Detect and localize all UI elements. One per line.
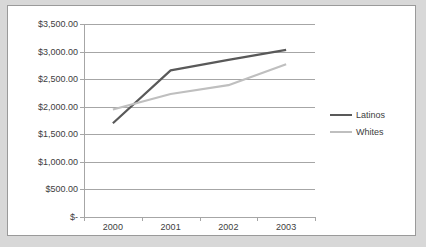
x-axis-tick: [315, 217, 316, 221]
y-axis-tick-label: $1,000.00: [38, 157, 78, 167]
series-line-whites: [113, 64, 286, 109]
y-axis-tick-label: $-: [70, 212, 78, 222]
series-line-latinos: [113, 50, 286, 123]
x-axis-labels: 2000200120022003: [84, 221, 315, 235]
y-axis-tick-label: $3,000.00: [38, 47, 78, 57]
y-axis-tick-label: $500.00: [45, 184, 78, 194]
legend-item-whites: Whites: [330, 123, 410, 140]
y-axis-tick-label: $2,500.00: [38, 74, 78, 84]
x-axis-tick-label: 2000: [103, 221, 123, 233]
x-axis-tick-label: 2001: [161, 221, 181, 233]
y-axis-tick-label: $3,500.00: [38, 19, 78, 29]
y-axis-labels: $3,500.00$3,000.00$2,500.00$2,000.00$1,5…: [8, 24, 78, 217]
x-axis-tick-label: 2002: [218, 221, 238, 233]
chart-legend: Latinos Whites: [330, 106, 410, 140]
plot-area: [84, 24, 315, 217]
series-lines: [84, 24, 315, 217]
x-axis-tick-label: 2003: [276, 221, 296, 233]
y-axis-tick-label: $1,500.00: [38, 129, 78, 139]
y-axis-tick-label: $2,000.00: [38, 102, 78, 112]
legend-label-latinos: Latinos: [356, 110, 385, 120]
legend-swatch-latinos: [330, 114, 352, 116]
chart-frame: $3,500.00$3,000.00$2,500.00$2,000.00$1,5…: [7, 5, 416, 236]
legend-item-latinos: Latinos: [330, 106, 410, 123]
legend-swatch-whites: [330, 131, 352, 133]
legend-label-whites: Whites: [356, 127, 384, 137]
